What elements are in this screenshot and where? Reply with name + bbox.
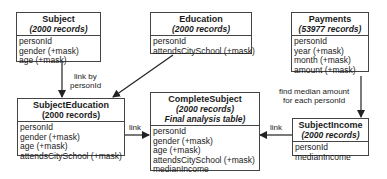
label-link-left: link [129, 123, 141, 132]
table-name: SubjectIncome [293, 120, 368, 130]
record-count: (2000 records) [151, 104, 259, 114]
record-count: (2000 records) [151, 24, 251, 34]
table-payments: Payments(53977 records) personId year (+… [291, 12, 369, 72]
label-link-right: link [270, 123, 282, 132]
record-count: (2000 records) [17, 24, 100, 34]
table-name: Payments [292, 14, 368, 24]
field: medianIncome [295, 153, 366, 163]
table-subject-income: SubjectIncome(2000 records) personId med… [292, 118, 369, 156]
table-complete-subject: CompleteSubject(2000 records)Final analy… [150, 92, 260, 171]
label-personid: personId [70, 81, 101, 90]
field: attendsCitySchool (+mask) [153, 47, 249, 57]
field: age (+mask) [19, 56, 98, 66]
table-subject-education: SubjectEducation(2000 records) personId … [17, 98, 125, 156]
label-for-each: for each personId [283, 96, 345, 105]
field: medianIncome [153, 165, 257, 175]
table-note: Final analysis table) [151, 114, 259, 124]
table-subject: Subject(2000 records) personId gender (+… [16, 12, 101, 62]
table-education: Education(2000 records) personId attends… [150, 12, 252, 54]
table-name: CompleteSubject [151, 94, 259, 104]
label-find-median: find median amount [279, 87, 349, 96]
record-count: (2000 records) [293, 130, 368, 140]
table-name: SubjectEducation [18, 100, 124, 110]
field: attendsCitySchool (+mask) [20, 152, 122, 162]
record-count: (2000 records) [18, 110, 124, 120]
table-name: Education [151, 14, 251, 24]
table-name: Subject [17, 14, 100, 24]
record-count: (53977 records) [292, 24, 368, 34]
field: amount (+mask) [294, 66, 366, 76]
label-link-by: link by [74, 72, 97, 81]
